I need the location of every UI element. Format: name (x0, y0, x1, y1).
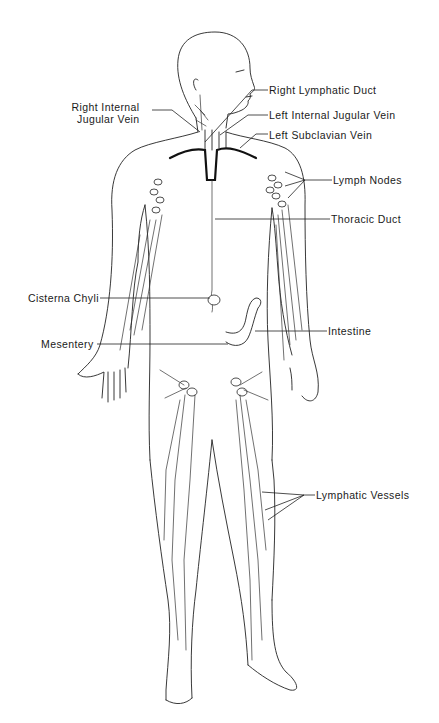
label-thoracic-duct: Thoracic Duct (331, 213, 401, 225)
intestine-shape (226, 298, 261, 345)
label-lymph-nodes: Lymph Nodes (333, 174, 402, 186)
label-right-lymphatic-duct: Right Lymphatic Duct (269, 84, 376, 96)
veins-and-ducts (170, 95, 256, 312)
label-lymphatic-vessels: Lymphatic Vessels (316, 489, 409, 501)
lymphatic-vessels (120, 205, 302, 660)
legs-outline (150, 440, 297, 704)
label-mesentery: Mesentery (41, 338, 94, 350)
lymphatic-system-diagram: Right Internal Jugular Vein Right Lympha… (0, 0, 439, 723)
label-left-internal-jugular-vein: Left Internal Jugular Vein (269, 109, 396, 121)
label-cisterna-chyli: Cisterna Chyli (28, 292, 99, 304)
head-outline (178, 32, 255, 132)
label-line-1: Right Internal (71, 101, 140, 113)
label-left-subclavian-vein: Left Subclavian Vein (269, 129, 372, 141)
label-right-internal-jugular-vein: Right Internal Jugular Vein (71, 101, 140, 125)
label-intestine: Intestine (328, 325, 371, 337)
lymph-nodes (150, 175, 286, 396)
label-line-2: Jugular Vein (71, 113, 140, 125)
torso-outline (78, 132, 318, 460)
